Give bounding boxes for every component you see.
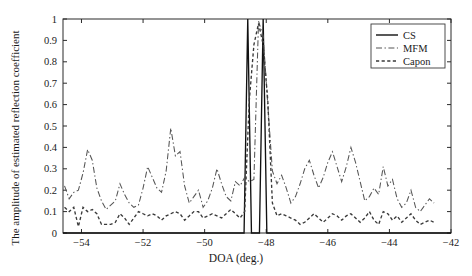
- y-tick-label: 0.9: [44, 35, 57, 46]
- figure-container: −54−52−50−48−46−44−4200.10.20.30.40.50.6…: [0, 0, 472, 276]
- legend-label-mfm: MFM: [403, 43, 428, 54]
- y-tick-label: 0.1: [44, 206, 57, 217]
- x-tick-label: −54: [73, 237, 90, 248]
- x-tick-label: −46: [320, 237, 336, 248]
- legend-label-cs: CS: [403, 30, 416, 41]
- x-tick-label: −42: [443, 237, 459, 248]
- x-axis-label: DOA (deg.): [0, 252, 472, 264]
- y-tick-label: 0.7: [44, 78, 57, 89]
- legend-label-capon: Capon: [403, 56, 431, 67]
- y-tick-label: 1: [52, 14, 57, 25]
- legend: CSMFMCapon: [371, 24, 445, 68]
- y-tick-label: 0.8: [44, 56, 57, 67]
- y-tick-label: 0.4: [44, 142, 58, 153]
- y-tick-label: 0.5: [44, 121, 57, 132]
- chart-canvas: −54−52−50−48−46−44−4200.10.20.30.40.50.6…: [0, 0, 472, 276]
- y-tick-label: 0.6: [44, 99, 57, 110]
- x-tick-label: −50: [196, 237, 212, 248]
- x-tick-label: −52: [135, 237, 151, 248]
- x-tick-label: −48: [258, 237, 274, 248]
- y-tick-label: 0.3: [44, 163, 57, 174]
- x-tick-label: −44: [381, 237, 398, 248]
- y-tick-label: 0.2: [44, 185, 57, 196]
- y-tick-label: 0: [52, 228, 57, 239]
